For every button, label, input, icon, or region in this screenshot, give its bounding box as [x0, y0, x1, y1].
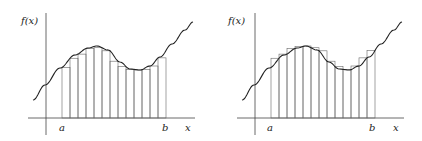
riemann-rectangle [70, 58, 78, 118]
upper-sum-chart [237, 13, 404, 135]
riemann-sums-figure: f(x) a b x f(x) a b x [0, 0, 422, 141]
left-b-label: b [162, 122, 168, 133]
riemann-rectangle [343, 69, 351, 118]
riemann-rectangle [303, 46, 311, 118]
riemann-rectangle [150, 66, 158, 118]
riemann-rectangle [359, 58, 367, 118]
riemann-rectangle [118, 67, 126, 118]
riemann-rectangle [351, 66, 359, 118]
riemann-rectangle [62, 67, 70, 118]
riemann-rectangle [319, 51, 327, 118]
riemann-rectangle [102, 51, 110, 118]
riemann-rectangle [142, 70, 150, 118]
left-x-label: x [185, 122, 191, 133]
riemann-rectangle [279, 54, 287, 118]
left-a-label: a [59, 122, 65, 133]
riemann-rectangle [78, 54, 86, 118]
right-x-label: x [393, 122, 399, 133]
riemann-rectangle [158, 58, 166, 118]
function-curve [242, 22, 402, 100]
riemann-rectangle [94, 48, 102, 118]
riemann-rectangle [295, 47, 303, 119]
riemann-rectangle [134, 70, 142, 118]
lower-sum-chart [28, 13, 195, 135]
riemann-rectangle [311, 48, 319, 118]
riemann-rectangle [287, 48, 295, 118]
riemann-rectangle [335, 67, 343, 118]
riemann-rectangle [126, 69, 134, 118]
riemann-rectangle [110, 61, 118, 118]
riemann-rectangle [86, 48, 94, 118]
left-y-label: f(x) [20, 15, 38, 26]
right-b-label: b [369, 122, 375, 133]
riemann-rectangle [367, 51, 375, 119]
riemann-rectangle [327, 61, 335, 118]
right-a-label: a [267, 122, 273, 133]
right-y-label: f(x) [227, 15, 245, 26]
